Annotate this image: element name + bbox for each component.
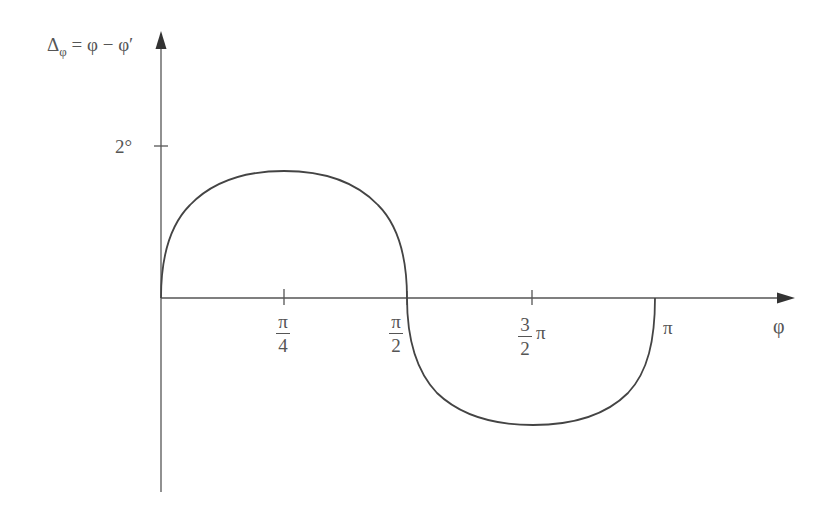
fraction-denominator: 2 <box>391 334 401 355</box>
chart-canvas <box>0 0 829 518</box>
y-axis-arrow-icon <box>156 31 167 49</box>
fraction-numerator: π <box>277 312 289 333</box>
x-tick-label-3-2pi: 3 2 <box>518 315 532 358</box>
x-axis-arrow-icon <box>777 293 795 304</box>
x-axis-title: φ <box>773 316 785 336</box>
x-tick-label-pi-2: π 2 <box>389 312 403 355</box>
x-tick-label-3-2pi-suffix: π <box>536 323 546 342</box>
x-tick-label-pi-4: π 4 <box>276 312 290 355</box>
fraction-denominator: 4 <box>278 334 288 355</box>
fraction-numerator: 3 <box>519 315 531 336</box>
fraction-numerator: π <box>390 312 402 333</box>
x-tick-label-pi: π <box>663 318 673 337</box>
y-axis-title: Δφ = φ − φ′ <box>47 34 133 60</box>
y-tick-label: 2° <box>115 137 132 156</box>
fraction-denominator: 2 <box>520 337 530 358</box>
